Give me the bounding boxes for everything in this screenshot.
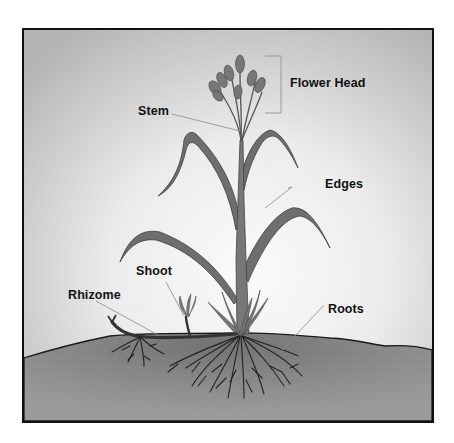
plant-illustration bbox=[0, 0, 454, 443]
label-shoot: Shoot bbox=[136, 264, 172, 278]
label-stem: Stem bbox=[138, 104, 169, 118]
label-rhizome: Rhizome bbox=[68, 288, 121, 302]
label-flower-head: Flower Head bbox=[290, 76, 365, 90]
label-roots: Roots bbox=[328, 302, 364, 316]
label-edges: Edges bbox=[325, 177, 363, 191]
